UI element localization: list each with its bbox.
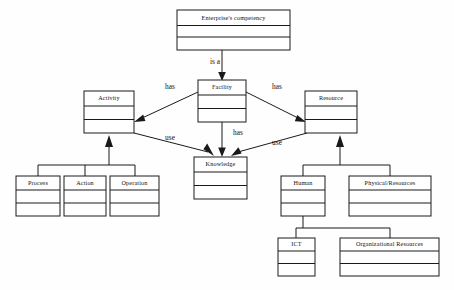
uml-class-action[interactable]: Action xyxy=(64,176,106,216)
class-name: Knowledge xyxy=(206,160,236,167)
class-name: Action xyxy=(76,179,94,186)
class-name: Physical/Resources xyxy=(365,179,416,186)
class-name: Enterprise's competency xyxy=(202,14,267,21)
class-name: ICT xyxy=(291,240,301,247)
class-name: Resource xyxy=(319,94,343,101)
class-name: Operation xyxy=(121,179,147,186)
edge-label-has-left: has xyxy=(165,82,175,91)
class-name: Facility xyxy=(212,83,233,90)
edge-human-children xyxy=(296,216,390,238)
edge-activity-children xyxy=(38,135,135,176)
arrow-head-icon xyxy=(336,135,344,147)
arrow-head-icon xyxy=(218,148,226,158)
edge-label-use-left: use xyxy=(165,133,176,142)
arrow-head-icon xyxy=(105,135,113,147)
edge-facility-knowledge xyxy=(218,122,226,157)
uml-class-resource[interactable]: Resource xyxy=(305,91,357,133)
arrow-head-icon xyxy=(203,144,214,156)
uml-class-physical-resources[interactable]: Physical/Resources xyxy=(349,176,431,216)
edge-facility-resource xyxy=(246,92,306,122)
edge-line xyxy=(140,92,198,119)
uml-class-operation[interactable]: Operation xyxy=(110,176,159,216)
edge-label-use-right: use xyxy=(272,138,283,147)
uml-class-activity[interactable]: Activity xyxy=(84,91,134,133)
class-name: Activity xyxy=(98,94,120,101)
uml-class-enterprise-competency[interactable]: Enterprise's competency xyxy=(177,10,290,50)
node-layer: Enterprise's competency Activity Facilit… xyxy=(16,10,439,276)
uml-class-human[interactable]: Human xyxy=(281,176,325,216)
uml-class-ict[interactable]: ICT xyxy=(278,238,315,276)
uml-class-knowledge[interactable]: Knowledge xyxy=(194,157,247,199)
diagram-canvas: is a has has has use use Enterprise's co… xyxy=(0,0,454,290)
class-name: Human xyxy=(294,179,313,186)
edge-line xyxy=(246,92,300,119)
edge-label-has-right: has xyxy=(272,82,282,91)
arrow-head-icon xyxy=(134,115,145,122)
edge-label-has-down: has xyxy=(233,128,243,137)
edge-label-is-a: is a xyxy=(210,57,221,66)
arrow-head-icon xyxy=(231,147,242,156)
class-name: Process xyxy=(28,179,48,186)
arrow-head-icon xyxy=(295,115,306,122)
uml-class-facility[interactable]: Facility xyxy=(198,80,246,122)
class-name: Organizational Resources xyxy=(356,240,424,247)
uml-class-process[interactable]: Process xyxy=(16,176,60,216)
uml-class-diagram: is a has has has use use Enterprise's co… xyxy=(0,0,454,290)
edge-facility-activity xyxy=(134,92,198,122)
uml-class-organizational-resources[interactable]: Organizational Resources xyxy=(340,238,439,276)
edge-resource-children xyxy=(303,135,390,176)
